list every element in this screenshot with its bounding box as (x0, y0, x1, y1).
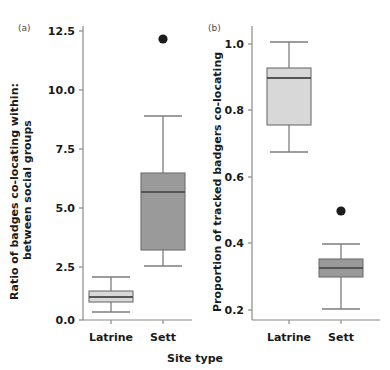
panel-a-box-sett (141, 34, 185, 266)
panel-a-y-ticks: 0.0 2.5 5.0 7.5 10.0 12.5 (48, 25, 83, 327)
panel-b-ylabel: Proportion of tracked badgers co-locatin… (211, 52, 224, 312)
panel-b-ytick-4: 1.0 (225, 38, 245, 51)
outlier-point (336, 206, 345, 215)
panel-a-ytick-3: 7.5 (56, 143, 76, 156)
box-iqr (267, 68, 311, 125)
panel-a-tag: (a) (18, 23, 31, 33)
panel-a-ytick-1: 2.5 (56, 261, 76, 274)
panel-b-ytick-0: 0.2 (225, 304, 245, 317)
panel-b-box-latrine (267, 42, 311, 152)
panel-b-y-ticks: 0.2 0.4 0.6 0.8 1.0 (225, 38, 253, 317)
panel-b: (b) Proportion of tracked badgers co-loc… (208, 23, 380, 344)
panel-a-ytick-4: 10.0 (48, 84, 75, 97)
panel-a-ytick-5: 12.5 (48, 25, 75, 38)
figure-root: (a) Ratio of badges co-locating within: … (0, 0, 390, 370)
panel-a-xtick-sett: Sett (150, 331, 176, 344)
panel-b-xtick-sett: Sett (328, 331, 354, 344)
panel-b-tag: (b) (208, 23, 221, 33)
panel-b-ytick-2: 0.6 (225, 171, 245, 184)
panel-a-ylabel-line1: Ratio of badges co-locating within: (8, 83, 21, 300)
x-axis-title: Site type (167, 352, 223, 365)
panel-a-ytick-2: 5.0 (56, 202, 76, 215)
panel-b-ytick-3: 0.8 (225, 104, 245, 117)
panel-a-ytick-0: 0.0 (56, 314, 76, 327)
boxplot-figure-svg: (a) Ratio of badges co-locating within: … (0, 0, 390, 370)
outlier-point (158, 34, 167, 43)
box-iqr (141, 173, 185, 250)
panel-a-xtick-latrine: Latrine (89, 331, 133, 344)
panel-b-box-sett (319, 206, 363, 309)
panel-b-ytick-1: 0.4 (225, 237, 245, 250)
panel-a-box-latrine (89, 277, 133, 312)
panel-b-xtick-latrine: Latrine (267, 331, 311, 344)
panel-a-ylabel-line2: between social groups (21, 120, 34, 260)
panel-a: (a) Ratio of badges co-locating within: … (8, 23, 192, 344)
